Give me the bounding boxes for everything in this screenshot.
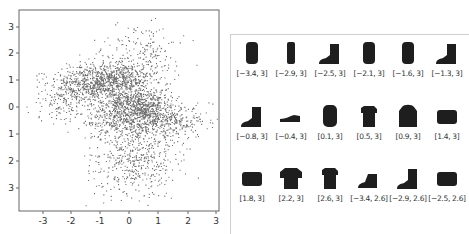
- latent-scatter-plot: -3-2-101233210123: [0, 0, 230, 234]
- tshirt-thumbnail-icon: [276, 164, 306, 192]
- coordinate-label: [1.4, 3]: [428, 132, 466, 141]
- y-tick-label: 1: [8, 129, 14, 139]
- decoded-sample-cell: [−2.5, 2.6]: [428, 164, 466, 214]
- decoded-sample-cell: [1.8, 3]: [233, 164, 271, 214]
- coordinate-label: [1.8, 3]: [233, 194, 271, 203]
- decoded-sample-cell: [−2.1, 3]: [350, 39, 388, 89]
- ankle-boot-thumbnail-icon: [432, 39, 462, 67]
- x-tick-label: 1: [155, 216, 161, 226]
- decoded-sample-cell: [−2.9, 2.6]: [389, 164, 427, 214]
- y-tick-label: 3: [8, 22, 14, 32]
- decoded-sample-cell: [2.2, 3]: [272, 164, 310, 214]
- sneaker-boot-thumbnail-icon: [354, 164, 384, 192]
- tall-boot-thumbnail-icon: [354, 39, 384, 67]
- decoded-sample-cell: [0.1, 3]: [311, 102, 349, 152]
- decoded-sample-cell: [−1.6, 3]: [389, 39, 427, 89]
- coordinate-label: [−1.6, 3]: [389, 69, 427, 78]
- decoded-sample-cell: [−3.4, 3]: [233, 39, 271, 89]
- x-tick-label: -1: [96, 216, 105, 226]
- decoded-sample-cell: [2.6, 3]: [311, 164, 349, 214]
- coordinate-label: [0.9, 3]: [389, 132, 427, 141]
- scatter-points: [26, 18, 218, 206]
- decoded-sample-cell: [−2.5, 3]: [311, 39, 349, 89]
- shirt-thumbnail-icon: [315, 164, 345, 192]
- coordinate-label: [−3.4, 2.6]: [350, 194, 388, 203]
- coordinate-label: [−0.8, 3]: [233, 132, 271, 141]
- decoded-sample-cell: [0.9, 3]: [389, 102, 427, 152]
- coordinate-label: [−2.9, 2.6]: [389, 194, 427, 203]
- y-tick-label: 2: [8, 156, 14, 166]
- coat-thumbnail-icon: [393, 102, 423, 130]
- tall-boot-thumbnail-icon: [393, 39, 423, 67]
- coordinate-label: [−2.9, 3]: [272, 69, 310, 78]
- decoded-sample-cell: [−1.3, 3]: [428, 39, 466, 89]
- y-tick-label: 2: [8, 48, 14, 58]
- x-tick-label: 0: [126, 216, 132, 226]
- decoded-sample-cell: [−0.8, 3]: [233, 102, 271, 152]
- coordinate-label: [−3.4, 3]: [233, 69, 271, 78]
- y-tick-label: 0: [8, 102, 14, 112]
- plot-frame: [19, 10, 219, 211]
- shirt-thumbnail-icon: [354, 102, 384, 130]
- coordinate-label: [−2.5, 2.6]: [428, 194, 466, 203]
- bag-thumbnail-icon: [237, 164, 267, 192]
- decoded-sample-cell: [1.4, 3]: [428, 102, 466, 152]
- sneaker-thumbnail-icon: [276, 102, 306, 130]
- decoded-sample-cell: [−0.4, 3]: [272, 102, 310, 152]
- decoded-sample-cell: [−2.9, 3]: [272, 39, 310, 89]
- coordinate-label: [0.5, 3]: [350, 132, 388, 141]
- decoded-sample-cell: [0.5, 3]: [350, 102, 388, 152]
- y-tick-label: 3: [8, 183, 14, 193]
- scatter-svg: -3-2-101233210123: [0, 0, 230, 234]
- bag-thumbnail-icon: [432, 102, 462, 130]
- x-tick-label: -2: [67, 216, 76, 226]
- coordinate-label: [2.2, 3]: [272, 194, 310, 203]
- decoded-sample-cell: [−3.4, 2.6]: [350, 164, 388, 214]
- narrow-boot-thumbnail-icon: [276, 39, 306, 67]
- x-tick-label: 2: [185, 216, 191, 226]
- ankle-boot-thumbnail-icon: [237, 102, 267, 130]
- coordinate-label: [0.1, 3]: [311, 132, 349, 141]
- coordinate-label: [−2.1, 3]: [350, 69, 388, 78]
- coordinate-label: [−2.5, 3]: [311, 69, 349, 78]
- decoded-samples-grid: [−3.4, 3][−2.9, 3][−2.5, 3][−2.1, 3][−1.…: [230, 34, 469, 234]
- tall-boot-thumbnail-icon: [237, 39, 267, 67]
- x-tick-label: 3: [213, 216, 219, 226]
- bag-thumbnail-icon: [432, 164, 462, 192]
- coordinate-label: [−0.4, 3]: [272, 132, 310, 141]
- ankle-boot-thumbnail-icon: [315, 39, 345, 67]
- coordinate-label: [2.6, 3]: [311, 194, 349, 203]
- dress-thumbnail-icon: [315, 102, 345, 130]
- y-tick-label: 1: [8, 75, 14, 85]
- x-tick-label: -3: [39, 216, 48, 226]
- coordinate-label: [−1.3, 3]: [428, 69, 466, 78]
- ankle-boot-thumbnail-icon: [393, 164, 423, 192]
